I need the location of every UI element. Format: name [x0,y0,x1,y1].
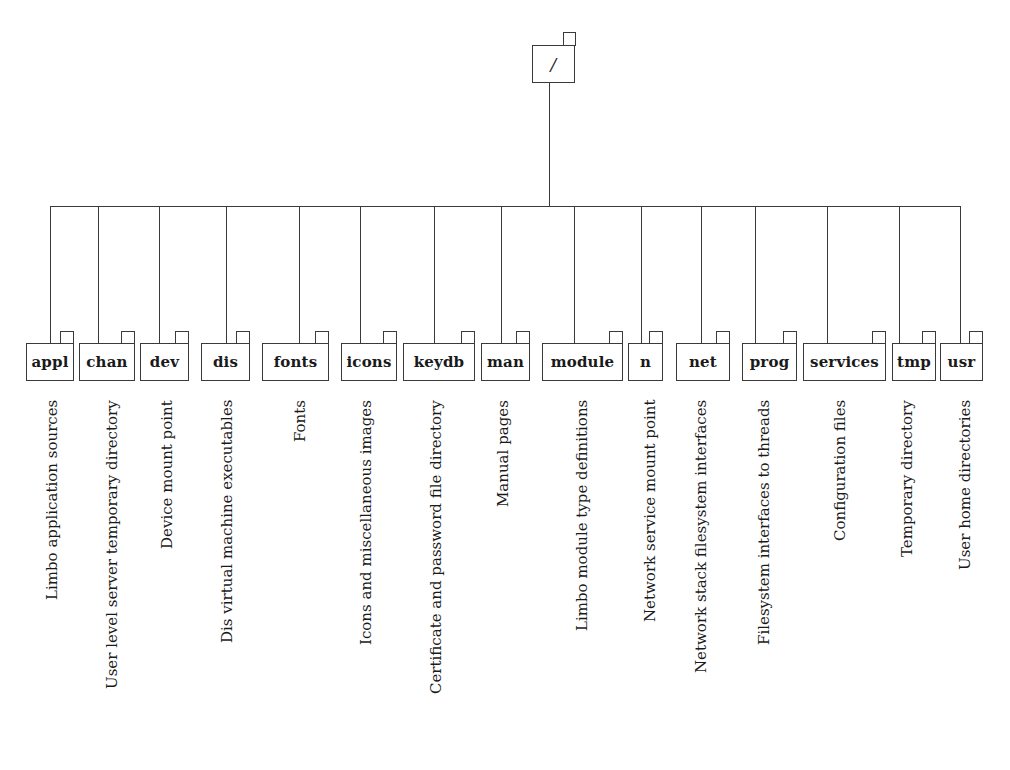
connector-line-chan [98,206,99,343]
horizontal-bus-line [50,206,961,207]
directory-box-dev[interactable]: dev [140,343,189,381]
directory-name: fonts [274,353,318,371]
directory-box-dis[interactable]: dis [201,343,250,381]
connector-line-appl [50,206,51,343]
connector-line-module [574,206,575,343]
root-folder-tab [563,32,576,46]
directory-name: keydb [414,353,465,371]
connector-line-dev [159,206,160,343]
directory-name: n [640,353,651,371]
directory-name: dis [213,353,238,371]
directory-box-net[interactable]: net [676,343,730,381]
connector-line-fonts [299,206,300,343]
directory-description: User home directories [957,400,973,570]
directory-description: Icons and miscellaneous images [358,400,374,645]
directory-name: dev [150,353,179,371]
root-connector-line [549,83,550,206]
directory-description: Temporary directory [899,400,915,557]
connector-line-usr [960,206,961,343]
directory-box-services[interactable]: services [803,343,886,381]
connector-line-prog [755,206,756,343]
directory-description: Fonts [292,400,308,442]
directory-name: man [487,353,524,371]
directory-name: module [551,353,615,371]
directory-box-tmp[interactable]: tmp [892,343,936,381]
directory-box-appl[interactable]: appl [26,343,74,381]
connector-line-keydb [434,206,435,343]
directory-name: tmp [897,353,931,371]
connector-line-man [501,206,502,343]
directory-box-n[interactable]: n [628,343,663,381]
directory-description: Configuration files [832,400,848,541]
directory-box-keydb[interactable]: keydb [403,343,475,381]
directory-description: Limbo application sources [44,400,60,600]
connector-line-dis [226,206,227,343]
directory-description: Filesystem interfaces to threads [756,400,772,645]
directory-box-usr[interactable]: usr [940,343,983,381]
directory-tree-diagram: / applLimbo application sourceschanUser … [0,0,1010,770]
directory-description: Network service mount point [642,400,658,622]
directory-name: services [810,353,879,371]
directory-box-fonts[interactable]: fonts [262,343,329,381]
directory-description: User level server temporary directory [104,400,120,689]
directory-box-prog[interactable]: prog [742,343,797,381]
root-directory-box[interactable]: / [532,45,575,83]
connector-line-tmp [899,206,900,343]
connector-line-icons [360,206,361,343]
directory-box-module[interactable]: module [542,343,623,381]
directory-description: Device mount point [159,400,175,549]
directory-name: usr [948,353,976,371]
directory-description: Dis virtual machine executables [219,400,235,643]
directory-name: chan [86,353,127,371]
directory-description: Certificate and password file directory [428,400,444,694]
directory-name: icons [346,353,391,371]
directory-box-chan[interactable]: chan [79,343,135,381]
directory-description: Limbo module type definitions [574,400,590,631]
connector-line-services [827,206,828,343]
connector-line-n [641,206,642,343]
directory-description: Network stack filesystem interfaces [693,400,709,673]
directory-description: Manual pages [495,400,511,507]
root-directory-label: / [551,54,557,74]
directory-name: appl [31,353,68,371]
directory-box-icons[interactable]: icons [341,343,397,381]
directory-name: prog [750,353,790,371]
directory-box-man[interactable]: man [481,343,530,381]
directory-name: net [689,353,717,371]
connector-line-net [701,206,702,343]
